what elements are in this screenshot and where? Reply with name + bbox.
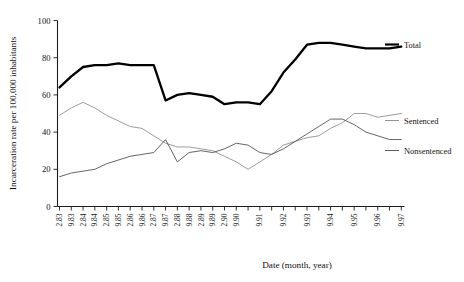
series-line-nonsentenced — [60, 119, 402, 177]
chart-canvas: 020406080100 2.839.832.849.842.859.852.8… — [0, 0, 464, 282]
incarceration-rate-line-chart: 020406080100 2.839.832.849.842.859.852.8… — [0, 0, 464, 282]
x-axis-title: Date (month, year) — [262, 260, 332, 270]
x-tick-label: 9.96 — [373, 213, 382, 226]
x-tick-label: 9.88 — [185, 213, 194, 226]
x-tick-label: 9.87 — [161, 213, 170, 226]
y-tick-label: 60 — [42, 90, 51, 100]
x-tick-label: 2.88 — [173, 213, 182, 226]
x-axis-ticks — [60, 207, 402, 211]
x-tick-label: 2.87 — [149, 213, 158, 226]
legend-label-total: Total — [404, 41, 422, 50]
y-axis-title: Incarceration rate per 100,000 inhabitan… — [8, 36, 18, 190]
x-tick-label: 2.83 — [55, 213, 64, 226]
x-tick-label: 9.86 — [138, 213, 147, 226]
y-axis-tick-labels: 020406080100 — [38, 16, 51, 212]
x-tick-label: 9.93 — [303, 213, 312, 226]
x-tick-label: 2.85 — [102, 213, 111, 226]
x-tick-label: 9.84 — [90, 213, 99, 226]
y-tick-label: 40 — [42, 127, 51, 137]
y-tick-label: 80 — [42, 53, 51, 63]
x-tick-label: 2.89 — [197, 213, 206, 226]
x-tick-label: 9.95 — [350, 213, 359, 226]
legend-label-sentenced: Sentenced — [404, 117, 439, 126]
series-layer — [60, 43, 402, 177]
series-line-total — [60, 43, 402, 104]
x-tick-label: 2.86 — [126, 213, 135, 226]
x-tick-label: 9.90 — [232, 213, 241, 226]
series-line-sentenced — [60, 102, 402, 169]
legend-label-nonsentenced: Nonsentenced — [404, 147, 452, 156]
x-tick-label: 2.90 — [220, 213, 229, 226]
x-tick-label: 9.89 — [208, 213, 217, 226]
y-tick-label: 100 — [38, 16, 51, 26]
x-tick-label: 9.94 — [326, 213, 335, 226]
x-tick-label: 9.91 — [255, 213, 264, 226]
y-tick-label: 20 — [42, 164, 51, 174]
x-tick-label: 2.84 — [79, 213, 88, 226]
x-tick-label: 9.83 — [67, 213, 76, 226]
x-tick-label: 9.92 — [279, 213, 288, 226]
y-tick-label: 0 — [46, 202, 50, 212]
x-axis-tick-labels: 2.839.832.849.842.859.852.869.862.879.87… — [55, 213, 406, 226]
x-tick-label: 9.85 — [114, 213, 123, 226]
legend: Total Sentenced Nonsentenced — [385, 41, 452, 156]
y-axis-ticks — [54, 21, 58, 207]
x-tick-label: 9.97 — [397, 213, 406, 226]
